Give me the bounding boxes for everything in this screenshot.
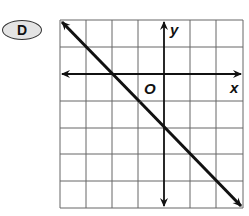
y-axis-label: y <box>169 21 179 38</box>
origin-label: O <box>144 80 156 97</box>
x-axis-label: x <box>229 79 239 96</box>
plotted-line <box>62 22 241 206</box>
coordinate-graph: y x O <box>0 0 249 216</box>
